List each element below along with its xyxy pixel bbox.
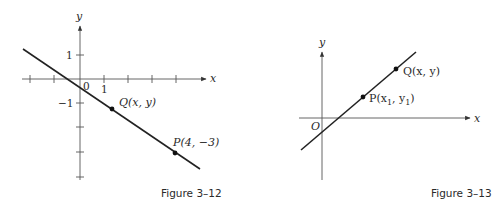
figure-3-13: y x O P(x1, y1) Q(x, y) Figure 3–13 (299, 36, 492, 199)
point-p-label: P(x1, y1) (369, 92, 415, 107)
x-axis-label: x (474, 112, 481, 125)
point-q-label: Q(x, y) (119, 96, 156, 109)
figure-caption: Figure 3–12 (161, 187, 222, 199)
y-axis-label: y (75, 10, 83, 23)
point-p (173, 151, 178, 156)
figures-canvas: y x 0 1 1 −1 Q(x, y) P(4, −3) Figure 3–1… (0, 0, 500, 213)
point-q (110, 107, 115, 112)
point-q (394, 67, 399, 72)
x-axis-label: x (210, 72, 217, 85)
origin-label: O (311, 120, 320, 133)
point-p (361, 95, 366, 100)
point-q-label: Q(x, y) (403, 65, 440, 78)
x-tick-label-1: 1 (101, 83, 108, 95)
y-axis-label: y (318, 36, 326, 49)
y-tick-label-1: 1 (66, 49, 73, 61)
point-p-label: P(4, −3) (172, 136, 219, 149)
y-tick-label-minus-1: −1 (58, 97, 73, 109)
figure-caption: Figure 3–13 (431, 187, 492, 199)
figure-3-12: y x 0 1 1 −1 Q(x, y) P(4, −3) Figure 3–1… (22, 10, 222, 199)
